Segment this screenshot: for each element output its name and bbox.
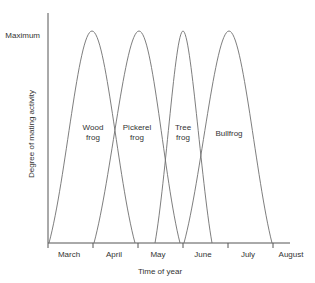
- wood-frog-label-line1: Wood: [83, 123, 104, 132]
- x-label-march: March: [58, 250, 80, 259]
- pickerel-frog-label-line1: Pickerel: [123, 123, 152, 132]
- x-label-june: June: [194, 250, 212, 259]
- x-label-august: August: [279, 250, 305, 259]
- x-label-april: April: [106, 250, 122, 259]
- x-label-may: May: [150, 250, 165, 259]
- y-axis-title: Degree of mating activity: [27, 90, 36, 178]
- x-axis-title: Time of year: [138, 267, 182, 276]
- bullfrog-label: Bullfrog: [215, 129, 242, 138]
- pickerel-frog-label-line2: frog: [130, 133, 144, 142]
- x-label-july: July: [241, 250, 255, 259]
- x-tick-labels: March April May June July August: [58, 250, 304, 259]
- y-max-label: Maximum: [5, 31, 40, 40]
- frog-mating-chart: Maximum Degree of mating activity March …: [0, 0, 315, 283]
- tree-frog-label-line2: frog: [176, 133, 190, 142]
- x-axis-ticks: [48, 243, 273, 248]
- wood-frog-label-line2: frog: [86, 133, 100, 142]
- tree-frog-label-line1: Tree: [175, 123, 192, 132]
